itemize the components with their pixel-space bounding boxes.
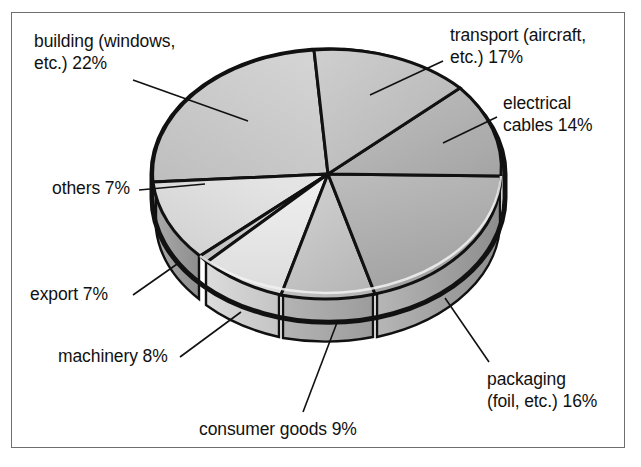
figure-canvas: building (windows, etc.) 22% transport (… xyxy=(0,0,641,467)
slice-label-others: others 7% xyxy=(52,177,172,199)
slice-label-building: building (windows, etc.) 22% xyxy=(34,30,244,74)
pie-top-face xyxy=(153,49,502,299)
slice-label-transport: transport (aircraft, etc.) 17% xyxy=(450,24,635,68)
slice-label-electrical: electrical cables 14% xyxy=(503,92,638,136)
slice-label-machinery: machinery 8% xyxy=(58,345,233,367)
slice-label-packaging: packaging (foil, etc.) 16% xyxy=(487,368,637,412)
slice-label-export: export 7% xyxy=(30,283,160,305)
leader-packaging xyxy=(445,298,489,362)
slice-label-consumer: consumer goods 9% xyxy=(199,418,414,440)
